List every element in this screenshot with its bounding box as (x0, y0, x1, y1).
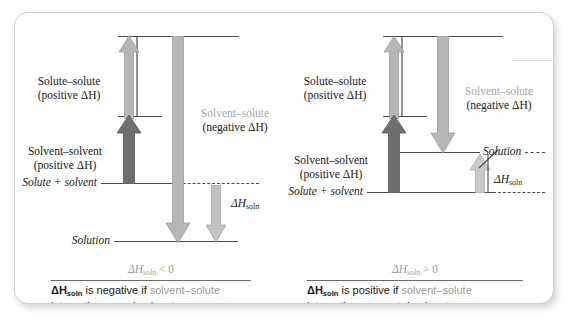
label-solvent-solute-line2: (negative ΔH) (202, 121, 267, 133)
arrow-solvent-solvent-up (381, 114, 407, 193)
arrow-solute-solute-up (118, 35, 140, 119)
caption-divider-left (51, 280, 251, 281)
label-solute-plus-solvent: Solute + solvent (15, 176, 97, 190)
caption-eq-rhs: > 0 (420, 263, 438, 275)
label-delta-h-soln-subscript: soln (509, 178, 522, 187)
label-solvent-solvent-line1: Solvent–solvent (294, 154, 368, 166)
label-solvent-solvent: Solvent–solvent (positive ΔH) (281, 154, 381, 181)
caption-line2: interactions are not dominant. (307, 300, 452, 304)
caption-divider-right (307, 280, 523, 281)
label-solute-solute-line1: Solute–solute (38, 75, 101, 87)
figure-frame: Solute–solute (positive ΔH) Solvent–solv… (14, 12, 554, 304)
caption-eq-symbol: ΔH (392, 263, 407, 275)
label-solute-solute-line2: (positive ΔH) (38, 89, 101, 101)
label-delta-h-soln-subscript: soln (246, 202, 259, 211)
dashed-line-solution-extension (525, 152, 545, 153)
caption-line1-symbol: ΔHsoln (51, 284, 82, 296)
label-solute-solute: Solute–solute (positive ΔH) (23, 75, 115, 102)
label-solution: Solution (483, 145, 521, 159)
panel-positive-enthalpy: Solute–solute (positive ΔH) Solvent–solv… (287, 13, 553, 303)
arrow-solvent-solute-down (165, 36, 191, 244)
caption-eq-subscript: soln (407, 268, 420, 277)
caption-line1-symbol: ΔHsoln (307, 284, 338, 296)
caption-text-negative: ΔHsoln is negative if solvent–solute int… (51, 283, 263, 304)
caption-line2: interactions are dominant. (51, 300, 178, 304)
label-solvent-solute-line1: Solvent–solute (465, 85, 533, 97)
label-solvent-solute: Solvent–solute (negative ΔH) (447, 85, 551, 112)
caption-line1-mid: is negative if (82, 284, 149, 296)
label-solvent-solvent-line2: (positive ΔH) (34, 159, 97, 171)
caption-eq-symbol: ΔH (128, 263, 143, 275)
dashed-line-reference-solute-plus-solvent (493, 192, 545, 193)
label-solute-plus-solvent: Solute + solvent (283, 185, 363, 199)
label-solvent-solvent-line2: (positive ΔH) (300, 168, 363, 180)
arrow-delta-h-soln-down (205, 185, 227, 243)
panel-negative-enthalpy: Solute–solute (positive ΔH) Solvent–solv… (15, 13, 287, 303)
caption-line1-highlight: solvent–solute (401, 284, 471, 296)
label-solvent-solute: Solvent–solute (negative ΔH) (183, 107, 287, 134)
delta-h-soln-measure-line (485, 154, 491, 193)
label-delta-h-soln: ΔHsoln (494, 173, 522, 185)
label-solvent-solute-line1: Solvent–solute (201, 107, 269, 119)
label-delta-h-soln-symbol: ΔH (494, 173, 509, 185)
arrow-solute-solute-up (383, 35, 405, 119)
label-solvent-solvent-line1: Solvent–solvent (28, 145, 102, 157)
label-solvent-solvent: Solvent–solvent (positive ΔH) (15, 145, 115, 172)
label-delta-h-soln-symbol: ΔH (231, 197, 246, 209)
label-solute-solute: Solute–solute (positive ΔH) (289, 75, 381, 102)
label-solution: Solution (35, 234, 110, 248)
label-delta-h-soln: ΔHsoln (231, 197, 259, 209)
label-solute-solute-line2: (positive ΔH) (304, 89, 367, 101)
caption-text-positive: ΔHsoln is positive if solvent–solute int… (307, 283, 535, 304)
arrow-solvent-solvent-up (116, 114, 142, 184)
caption-line1-highlight: solvent–solute (150, 284, 220, 296)
caption-line1-mid: is positive if (338, 284, 401, 296)
caption-eq-subscript: soln (143, 268, 156, 277)
caption-eq-rhs: < 0 (156, 263, 174, 275)
label-solvent-solute-line2: (negative ΔH) (466, 99, 531, 111)
label-solute-solute-line1: Solute–solute (304, 75, 367, 87)
caption-equation-negative: ΔHsoln < 0 (51, 263, 251, 275)
caption-equation-positive: ΔHsoln > 0 (307, 263, 523, 275)
